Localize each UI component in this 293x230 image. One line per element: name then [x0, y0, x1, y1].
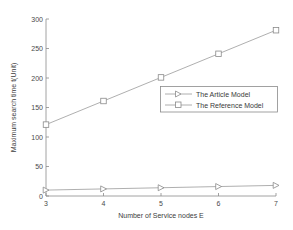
legend-label-reference-model: The Reference Model — [196, 102, 264, 109]
y-tick-label: 100 — [31, 134, 43, 141]
data-point-triangle — [216, 184, 222, 190]
legend-entry-reference-model[interactable]: The Reference Model — [165, 102, 264, 109]
square-icon — [176, 102, 182, 108]
data-point-square — [158, 75, 164, 81]
data-point-square — [101, 98, 107, 104]
data-point-square — [273, 27, 279, 33]
chart-legend[interactable]: The Article Model The Reference Model — [161, 87, 278, 113]
x-tick-label: 7 — [274, 200, 278, 207]
line-chart: 300 250 200 150 100 50 0 3 4 5 6 7 Numbe… — [0, 0, 293, 230]
series-markers-article-model — [43, 182, 279, 193]
y-axis-title: Maximum search time t(Unit) — [10, 63, 18, 152]
y-tick-label: 250 — [31, 45, 43, 52]
x-tick-label: 3 — [44, 200, 48, 207]
data-point-square — [43, 122, 49, 128]
y-tick-label: 50 — [35, 163, 43, 170]
y-tick-label: 0 — [39, 193, 43, 200]
x-tick-label: 4 — [102, 200, 106, 207]
x-axis-title: Number of Service nodes E — [118, 212, 204, 219]
legend-label-article-model: The Article Model — [196, 91, 251, 98]
x-tick-label: 5 — [159, 200, 163, 207]
y-axis-tick-labels: 300 250 200 150 100 50 0 — [31, 16, 43, 200]
y-tick-label: 150 — [31, 104, 43, 111]
y-tick-label: 300 — [31, 16, 43, 23]
data-point-triangle — [101, 186, 107, 192]
x-axis-ticks — [46, 193, 276, 196]
y-tick-label: 200 — [31, 75, 43, 82]
figure-canvas: 300 250 200 150 100 50 0 3 4 5 6 7 Numbe… — [0, 0, 293, 230]
data-point-triangle — [158, 185, 164, 191]
y-axis-ticks — [46, 19, 49, 196]
data-point-square — [216, 51, 222, 57]
data-point-triangle — [273, 182, 279, 188]
x-tick-label: 6 — [217, 200, 221, 207]
x-axis-tick-labels: 3 4 5 6 7 — [44, 200, 278, 207]
